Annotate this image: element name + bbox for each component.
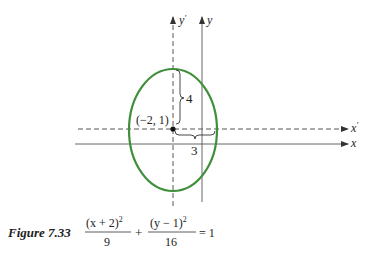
x-prime-axis-label: x′ <box>350 120 359 135</box>
x-axis-label: x <box>350 136 357 150</box>
ellipse-equation: (x + 2)2 9 + (y − 1)2 16 = 1 <box>85 215 215 249</box>
term1-numerator: (x + 2)2 <box>86 215 123 230</box>
y-prime-axis-label: y′ <box>178 13 187 27</box>
ellipse-diagram: 4 3 (−2, 1) y′ y x′ x Figure 7.33 (x + 2… <box>0 0 382 272</box>
term2-numerator: (y − 1)2 <box>150 215 187 230</box>
term2-denominator: 16 <box>165 235 177 249</box>
horizontal-semi-axis-brace <box>175 131 215 139</box>
figure-caption-label: Figure 7.33 <box>7 225 71 240</box>
vertical-semi-axis-label: 4 <box>186 91 193 106</box>
term1-denominator: 9 <box>104 235 110 249</box>
horizontal-semi-axis-label: 3 <box>191 143 198 158</box>
equals-one: = 1 <box>199 226 215 240</box>
plus-sign: + <box>135 225 142 240</box>
center-point <box>170 126 175 131</box>
vertical-semi-axis-brace <box>176 70 184 124</box>
center-label: (−2, 1) <box>136 113 169 127</box>
y-axis-label: y <box>206 13 213 27</box>
